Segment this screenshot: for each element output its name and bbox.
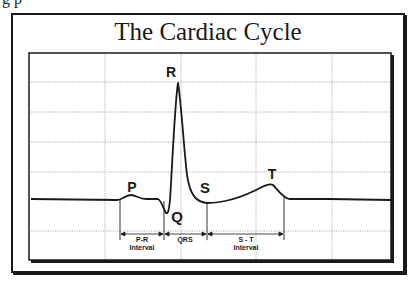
wave-label-q: Q xyxy=(171,208,183,225)
wave-label-t: T xyxy=(268,166,277,182)
interval-pr-label-2: Interval xyxy=(130,244,155,251)
inner-frame xyxy=(29,53,391,260)
ecg-diagram: R P Q S T P-R Interval QRS S - T Interva… xyxy=(0,0,416,284)
interval-st-label-2: Interval xyxy=(234,244,259,251)
wave-label-r: R xyxy=(166,64,176,80)
interval-pr-label: P-R xyxy=(136,236,148,243)
interval-qrs-label: QRS xyxy=(177,236,193,244)
wave-label-p: P xyxy=(127,179,136,195)
interval-st-label: S - T xyxy=(238,236,254,243)
wave-label-s: S xyxy=(200,179,210,196)
